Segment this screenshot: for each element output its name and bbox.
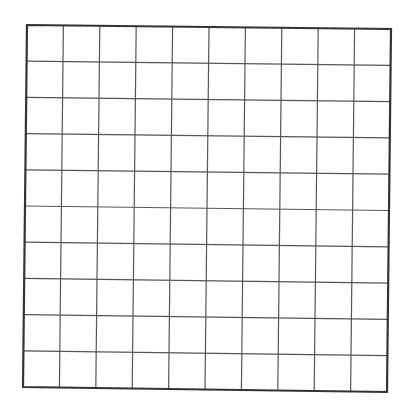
grid-diagram: [0, 0, 410, 410]
grid-inner-lines: [23, 25, 390, 391]
